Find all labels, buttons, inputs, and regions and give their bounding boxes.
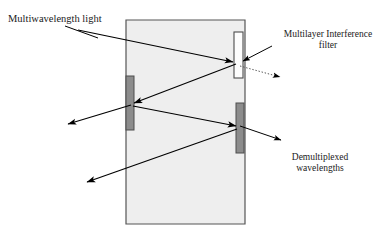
diagram-canvas: Multiwavelength light Multilayer Interfe… — [0, 0, 390, 251]
glass-substrate-block — [126, 20, 245, 224]
label-demultiplexed-wavelengths: Demultiplexedwavelengths — [266, 152, 374, 173]
label-filter-line1: Multilayer Interference — [284, 29, 372, 39]
label-demux-line2: wavelengths — [296, 163, 344, 173]
ray-transmitted-dotted-out-right — [240, 66, 280, 77]
leader-multiwavelength — [65, 26, 98, 38]
filter-left — [126, 76, 134, 130]
label-filter-line2: filter — [319, 40, 337, 50]
filter-bottom-right — [236, 103, 244, 153]
label-multilayer-interference-filter: Multilayer Interferencefilter — [272, 29, 384, 50]
leader-demultiplexed — [240, 126, 281, 140]
label-multiwavelength-light: Multiwavelength light — [8, 13, 102, 25]
leader-filter — [243, 46, 272, 61]
ray-transmitted-out-upper-left — [68, 105, 131, 124]
label-demux-line1: Demultiplexed — [292, 152, 348, 162]
filter-top-right — [234, 32, 243, 78]
block-body — [126, 20, 245, 224]
